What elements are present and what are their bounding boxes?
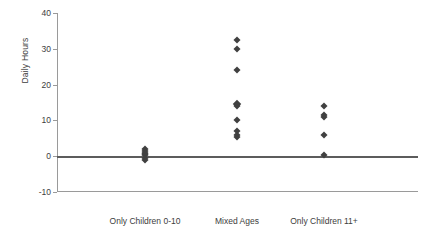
y-tick-mark xyxy=(53,85,57,86)
x-category-label-3: Only Children 11+ xyxy=(290,216,358,226)
y-tick-mark xyxy=(53,192,57,193)
y-tick-label: 30 xyxy=(42,44,51,54)
y-tick-label: -10 xyxy=(39,187,51,197)
y-tick-mark xyxy=(53,49,57,50)
data-point-marker xyxy=(320,152,327,159)
y-axis-line xyxy=(57,13,58,192)
data-point-marker xyxy=(233,67,240,74)
dot-plot-chart: Daily Hours 40 30 20 10 0 -10 xyxy=(0,0,437,231)
y-tick-label: 0 xyxy=(46,151,51,161)
x-axis-line xyxy=(57,191,418,192)
data-point-marker xyxy=(320,131,327,138)
data-point-marker xyxy=(233,45,240,52)
zero-reference-line xyxy=(57,156,418,158)
data-point-marker xyxy=(233,36,240,43)
data-point-marker xyxy=(320,103,327,110)
data-point-marker xyxy=(233,117,240,124)
x-category-label-1: Only Children 0-10 xyxy=(110,216,181,226)
y-tick-label: 20 xyxy=(42,80,51,90)
y-tick-label: 40 xyxy=(42,8,51,18)
y-axis-title: Daily Hours xyxy=(14,0,36,176)
plot-area: 40 30 20 10 0 -10 Only Children 0-10 Mix… xyxy=(57,13,418,192)
y-tick-label: 10 xyxy=(42,115,51,125)
y-tick-mark xyxy=(53,120,57,121)
y-tick-mark xyxy=(53,13,57,14)
x-category-label-2: Mixed Ages xyxy=(215,216,259,226)
